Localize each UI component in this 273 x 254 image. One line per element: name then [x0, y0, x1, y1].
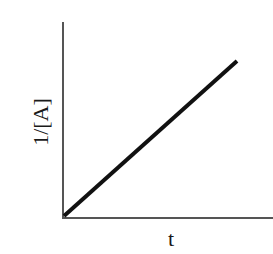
data-line: [64, 61, 237, 216]
y-axis-label: 1/[A]: [28, 98, 53, 146]
chart: 1/[A] t: [0, 0, 273, 254]
x-axis-label: t: [168, 226, 174, 251]
